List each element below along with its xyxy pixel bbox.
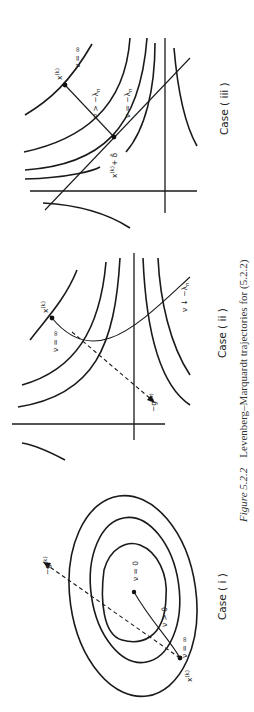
- label-nu-down: ν ↓ −λn: [180, 282, 190, 312]
- panel-case-ii: x(k) ν = ∞ ν ↓ −λn −g(k) Case ( ii ): [12, 253, 228, 460]
- point-xk: [63, 83, 68, 88]
- figure-5-2-2: x(k) ν = ∞ ν > −λn ν = −λn x(k)+ δ̄ Case…: [0, 0, 254, 712]
- caption-text: Levenberg–Marquardt trajectories for (5.…: [237, 259, 250, 457]
- label-neg-g: −g(k): [148, 393, 158, 412]
- label-nu-inf: ν = ∞: [73, 47, 82, 69]
- label-nu-gt: ν > −λn: [91, 88, 101, 118]
- label-neg-g: −g(k): [42, 556, 52, 575]
- label-xk: x(k): [54, 68, 64, 80]
- contour-curve: [18, 258, 120, 407]
- case-i-title: Case ( i ): [216, 573, 228, 620]
- label-x-plus-delta: x(k)+ δ̄: [109, 152, 119, 178]
- contour-ellipse: [81, 512, 188, 669]
- label-nu-inf: ν = ∞: [180, 637, 189, 659]
- contour-curve: [22, 443, 65, 460]
- label-nu-eq: ν = −λn: [123, 88, 133, 118]
- label-nu-zero: ν = 0: [131, 561, 140, 581]
- point-minimum: [132, 590, 136, 594]
- label-nu-pos: ν > 0: [160, 607, 169, 627]
- lm-trajectory: [65, 85, 114, 137]
- figure-number: Figure 5.2.2: [237, 467, 249, 523]
- neg-gradient-line: [72, 332, 152, 400]
- case-ii-title: Case ( ii ): [216, 308, 228, 358]
- lm-trajectory: [52, 277, 190, 341]
- contour-curve: [30, 270, 77, 340]
- contour-curve: [22, 262, 106, 385]
- lm-trajectory: [134, 592, 180, 658]
- point-end: [112, 135, 117, 140]
- contour-curve: [143, 258, 190, 405]
- contour-curve: [43, 203, 130, 228]
- label-nu-inf: ν = ∞: [51, 331, 60, 353]
- label-xk: x(k): [184, 670, 194, 682]
- label-xk: x(k): [40, 301, 50, 313]
- contour-curve: [158, 258, 190, 375]
- case-iii-title: Case ( iii ): [218, 82, 230, 135]
- panel-case-iii: x(k) ν = ∞ ν > −λn ν = −λn x(k)+ δ̄ Case…: [24, 38, 230, 228]
- point-xk: [50, 316, 55, 321]
- figure-caption: Figure 5.2.2Levenberg–Marquardt trajecto…: [237, 259, 250, 523]
- panel-case-i: x(k) ν = ∞ ν > 0 ν = 0 −g(k) Case ( i ): [42, 487, 228, 705]
